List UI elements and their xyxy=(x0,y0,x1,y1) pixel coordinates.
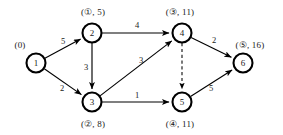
node-1[interactable]: 1 xyxy=(27,54,46,73)
edge-weight-2-4: 4 xyxy=(135,20,140,30)
node-2[interactable]: 2 xyxy=(83,24,102,43)
node-label-1: (0) xyxy=(14,40,25,50)
diagram-canvas: 52343125 123456 (0)(①, 5)(②, 8)(③, 11)(④… xyxy=(0,0,283,135)
node-label-6: (⑤, 16) xyxy=(236,40,265,50)
edge-weight-1-3: 2 xyxy=(60,83,64,93)
edge-weight-4-6: 2 xyxy=(212,35,216,45)
node-label-3: (②, 8) xyxy=(81,119,105,129)
edge-weight-1-2: 5 xyxy=(61,36,65,46)
node-id-1: 1 xyxy=(34,58,39,68)
node-6[interactable]: 6 xyxy=(234,54,253,73)
node-id-5: 5 xyxy=(180,97,185,107)
edge-weight-5-6: 5 xyxy=(209,83,213,93)
edge-weight-2-3: 3 xyxy=(84,62,88,72)
edge-3-to-4 xyxy=(100,41,172,96)
graph-svg: 52343125 123456 (0)(①, 5)(②, 8)(③, 11)(④… xyxy=(0,0,283,135)
node-4[interactable]: 4 xyxy=(173,24,192,43)
node-id-4: 4 xyxy=(180,28,185,38)
node-label-4: (③, 11) xyxy=(166,7,195,17)
node-labels-layer: (0)(①, 5)(②, 8)(③, 11)(④, 11)(⑤, 16) xyxy=(14,7,264,129)
node-id-6: 6 xyxy=(241,58,246,68)
node-5[interactable]: 5 xyxy=(173,93,192,112)
node-label-5: (④, 11) xyxy=(166,119,195,129)
node-label-2: (①, 5) xyxy=(81,7,105,17)
node-id-2: 2 xyxy=(90,28,95,38)
node-3[interactable]: 3 xyxy=(83,93,102,112)
edge-weight-3-5: 1 xyxy=(135,90,139,100)
node-id-3: 3 xyxy=(90,97,95,107)
edge-weight-3-4: 3 xyxy=(139,55,143,65)
